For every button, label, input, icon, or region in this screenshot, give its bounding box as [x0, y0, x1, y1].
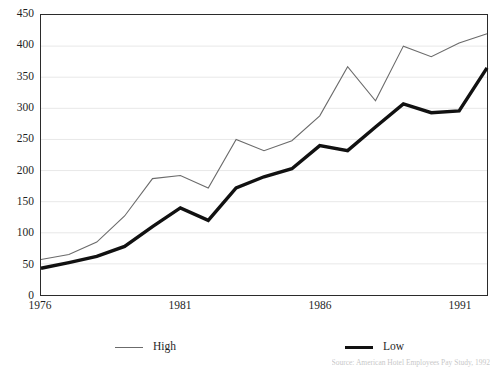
legend-line-icon [345, 346, 373, 349]
y-tick-label: 300 [17, 102, 34, 114]
x-tick-label: 1986 [309, 300, 332, 312]
y-tick-label: 100 [17, 228, 34, 240]
y-tick-label: 250 [17, 134, 34, 146]
legend-entry-high[interactable]: High [115, 339, 176, 355]
legend-label: Low [383, 341, 404, 353]
y-tick-label: 200 [17, 165, 34, 177]
x-tick-label: 1981 [169, 300, 192, 312]
y-tick-label: 350 [17, 71, 34, 83]
line-chart-figure: 050100150200250300350400450 197619811986… [0, 0, 492, 368]
x-tick-label: 1976 [29, 300, 52, 312]
y-axis: 050100150200250300350400450 [0, 14, 34, 296]
legend-line-icon [115, 347, 143, 348]
y-tick-label: 50 [23, 259, 35, 271]
series-lines [41, 15, 487, 295]
y-tick-label: 400 [17, 40, 34, 52]
y-tick-label: 150 [17, 196, 34, 208]
x-axis: 1976198119861991 [40, 300, 488, 318]
plot-area [40, 14, 488, 296]
y-tick-label: 450 [17, 8, 34, 20]
x-tick-label: 1991 [449, 300, 472, 312]
legend-label: High [153, 341, 176, 353]
legend-entry-low[interactable]: Low [345, 339, 404, 355]
source-note: Source: American Hotel Employees Pay Stu… [332, 359, 490, 368]
chart-legend: HighLow [40, 339, 488, 355]
series-line-low [41, 68, 487, 268]
series-line-high [41, 34, 487, 260]
